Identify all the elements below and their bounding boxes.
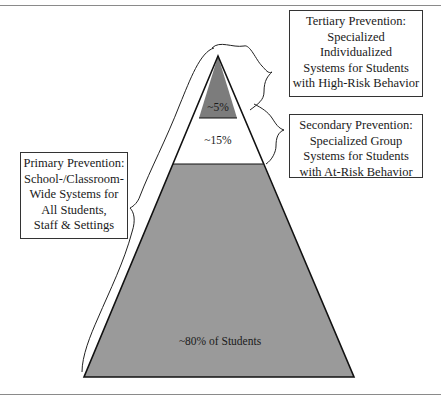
primary-line-2: School-/Classroom- xyxy=(21,172,127,188)
secondary-line-4: with At-Risk Behavior xyxy=(290,165,422,181)
primary-line-3: Wide Systems for xyxy=(21,187,127,203)
tertiary-line-1: Tertiary Prevention: xyxy=(290,14,422,30)
primary-prevention-box: Primary Prevention: School-/Classroom- W… xyxy=(20,152,128,239)
tertiary-line-5: with High-Risk Behavior xyxy=(290,76,422,92)
secondary-line-3: Systems for Students xyxy=(290,149,422,165)
tier-secondary-label: ~15% xyxy=(194,134,242,146)
tier-primary-label: ~80% of Students xyxy=(160,335,280,347)
primary-line-4: All Students, xyxy=(21,203,127,219)
tier-tertiary-label: ~5% xyxy=(200,101,236,113)
tertiary-line-4: Systems for Students xyxy=(290,61,422,77)
tertiary-line-3: Individualized xyxy=(290,45,422,61)
secondary-prevention-box: Secondary Prevention: Specialized Group … xyxy=(289,114,423,178)
brace-secondary xyxy=(254,104,284,164)
tertiary-line-2: Specialized xyxy=(290,30,422,46)
primary-line-5: Staff & Settings xyxy=(21,218,127,234)
secondary-line-2: Specialized Group xyxy=(290,134,422,150)
tertiary-prevention-box: Tertiary Prevention: Specialized Individ… xyxy=(289,10,423,97)
secondary-line-1: Secondary Prevention: xyxy=(290,118,422,134)
primary-line-1: Primary Prevention: xyxy=(21,156,127,172)
